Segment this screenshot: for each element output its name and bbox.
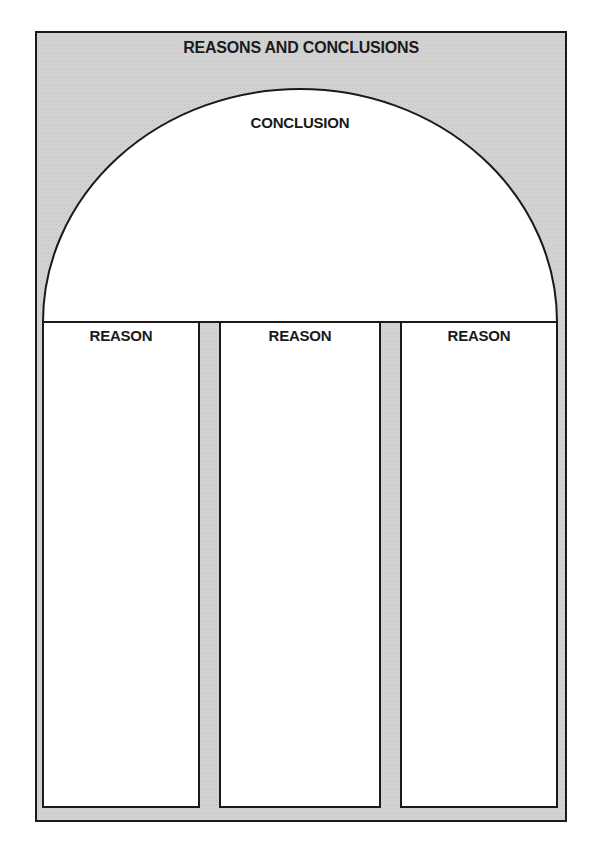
reason-heading-3: REASON: [401, 327, 557, 344]
reason-write-area-1[interactable]: [45, 348, 197, 804]
reason-write-area-3[interactable]: [403, 348, 555, 804]
organizer-title: REASONS AND CONCLUSIONS: [36, 39, 566, 57]
reason-heading-2: REASON: [220, 327, 380, 344]
reason-write-area-2[interactable]: [222, 348, 378, 804]
reason-heading-1: REASON: [43, 327, 199, 344]
conclusion-heading: CONCLUSION: [43, 114, 557, 131]
conclusion-write-area[interactable]: [60, 140, 540, 315]
